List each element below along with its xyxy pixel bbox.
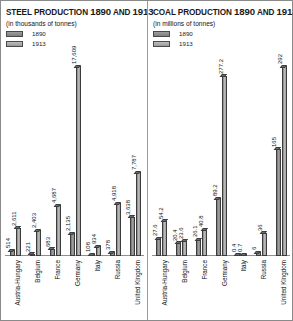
bar-value-label: 17,609 xyxy=(71,46,77,67)
category-label: Russia xyxy=(261,260,267,279)
bar-group: 2,13517,609Germany xyxy=(65,60,85,256)
bar-group: 108934Italy xyxy=(85,60,105,256)
bar-1913-united-kingdom[interactable]: 292 xyxy=(282,66,287,256)
category-label: Russia xyxy=(115,260,121,279)
bar-value-label: 2,611 xyxy=(11,211,17,229)
bar-group: 165292United Kingdom xyxy=(271,60,291,256)
bar-1913-austria-hungary[interactable]: 54.2 xyxy=(162,221,167,256)
bar-1890-belgium[interactable]: 221 xyxy=(30,254,35,256)
bar-value-label: 4,918 xyxy=(111,186,117,204)
bar-group: 27.654.2Austria-Hungary xyxy=(152,60,172,256)
bar-group: 6834,687France xyxy=(45,60,65,256)
bar-1913-russia[interactable]: 4,918 xyxy=(116,203,121,256)
bar-value-label: 292 xyxy=(277,54,283,67)
bar-value-label: 0.7 xyxy=(237,244,243,255)
bar-1890-germany[interactable]: 89.2 xyxy=(216,198,221,256)
bar-value-label: 683 xyxy=(45,237,51,250)
bar-group: 2212,403Belgium xyxy=(25,60,45,256)
bar-value-label: 277.2 xyxy=(218,59,224,77)
coal-title-year-1890: 1890 xyxy=(234,6,255,17)
category-label: Austria-Hungary xyxy=(162,260,168,306)
coal-panel-title: Coal production 1890 and 1913 xyxy=(153,6,293,17)
bar-group: 3784,918Russia xyxy=(105,60,125,256)
bar-1890-germany[interactable]: 2,135 xyxy=(70,233,75,256)
category-label: Germany xyxy=(222,260,228,286)
steel-bar-groups: 5142,611Austria-Hungary2212,403Belgium68… xyxy=(5,60,145,256)
category-label: Belgium xyxy=(35,260,41,283)
legend-swatch-1913 xyxy=(153,41,170,47)
bar-1890-united-kingdom[interactable]: 165 xyxy=(276,149,281,256)
coal-title-and: and xyxy=(257,8,274,17)
bar-value-label: 221 xyxy=(25,242,31,255)
bar-group: 0.40.7Italy xyxy=(231,60,251,256)
bar-1890-france[interactable]: 26.1 xyxy=(196,239,201,256)
category-label: France xyxy=(202,260,208,280)
bar-1890-france[interactable]: 683 xyxy=(50,249,55,256)
steel-panel: Steel production 1890 and 1913 (in thous… xyxy=(1,1,147,320)
steel-panel-title: Steel production 1890 and 1913 xyxy=(6,6,147,17)
coal-plot-area: 27.654.2Austria-Hungary20.423.6Belgium26… xyxy=(148,61,293,318)
coal-title-year-1913: 1913 xyxy=(277,6,293,17)
bar-value-label: 2,135 xyxy=(65,216,71,234)
bar-value-label: 27.6 xyxy=(152,224,158,239)
steel-title-and: and xyxy=(113,8,130,17)
legend-item-1890: 1890 xyxy=(153,30,293,38)
bar-1890-russia[interactable]: 6 xyxy=(256,252,261,256)
bar-group: 636Russia xyxy=(251,60,271,256)
coal-bar-groups: 27.654.2Austria-Hungary20.423.6Belgium26… xyxy=(152,60,291,256)
infographic-page: Steel production 1890 and 1913 (in thous… xyxy=(0,0,293,321)
bar-value-label: 514 xyxy=(5,238,11,251)
bar-value-label: 40.8 xyxy=(198,216,204,231)
bar-1913-germany[interactable]: 17,609 xyxy=(76,66,81,256)
bar-1890-united-kingdom[interactable]: 3,638 xyxy=(130,217,135,256)
bar-value-label: 7,787 xyxy=(131,155,137,173)
bar-1913-belgium[interactable]: 23.6 xyxy=(182,241,187,256)
category-label: Germany xyxy=(75,260,81,286)
bar-1913-belgium[interactable]: 2,403 xyxy=(36,230,41,256)
legend-swatch-1890 xyxy=(6,31,23,37)
category-label: United Kingdom xyxy=(281,260,287,305)
bar-1913-italy[interactable]: 934 xyxy=(96,246,101,256)
bar-1890-austria-hungary[interactable]: 514 xyxy=(10,250,15,256)
bar-group: 5142,611Austria-Hungary xyxy=(5,60,25,256)
bar-value-label: 23.6 xyxy=(178,227,184,242)
coal-title-lead: Coal production xyxy=(153,8,232,17)
bar-1913-france[interactable]: 40.8 xyxy=(202,229,207,256)
bar-value-label: 36 xyxy=(257,224,263,234)
category-label: France xyxy=(55,260,61,280)
bar-value-label: 378 xyxy=(105,240,111,253)
bar-1913-austria-hungary[interactable]: 2,611 xyxy=(16,228,21,256)
category-label: Belgium xyxy=(182,260,188,283)
steel-title-year-1890: 1890 xyxy=(90,6,111,17)
legend-label-1913: 1913 xyxy=(32,41,46,47)
category-label: Austria-Hungary xyxy=(15,260,21,306)
category-label: United Kingdom xyxy=(135,260,141,305)
bar-value-label: 4,687 xyxy=(51,188,57,206)
bar-1890-russia[interactable]: 378 xyxy=(110,252,115,256)
bar-1913-germany[interactable]: 277.2 xyxy=(222,76,227,256)
bar-1890-belgium[interactable]: 20.4 xyxy=(176,243,181,256)
category-label: Italy xyxy=(241,260,247,272)
bar-1890-italy[interactable]: 108 xyxy=(90,254,95,256)
bar-value-label: 89.2 xyxy=(212,184,218,199)
bar-value-label: 20.4 xyxy=(172,229,178,244)
bar-group: 89.2277.2Germany xyxy=(212,60,232,256)
bar-1913-italy[interactable]: 0.7 xyxy=(242,254,247,256)
legend-label-1913: 1913 xyxy=(179,41,193,47)
bar-1890-austria-hungary[interactable]: 27.6 xyxy=(156,238,161,256)
bar-value-label: 26.1 xyxy=(192,225,198,240)
bar-1913-united-kingdom[interactable]: 7,787 xyxy=(136,172,141,256)
bar-group: 20.423.6Belgium xyxy=(172,60,192,256)
bar-value-label: 2,403 xyxy=(31,213,37,231)
legend-item-1913: 1913 xyxy=(153,40,293,48)
coal-panel: Coal production 1890 and 1913 (in millio… xyxy=(147,1,293,320)
bar-value-label: 3,638 xyxy=(125,200,131,218)
legend-item-1890: 1890 xyxy=(6,30,147,38)
bar-1913-france[interactable]: 4,687 xyxy=(56,205,61,256)
legend-label-1890: 1890 xyxy=(32,31,46,37)
bar-1913-russia[interactable]: 36 xyxy=(262,233,267,256)
legend-swatch-1913 xyxy=(6,41,23,47)
bar-value-label: 165 xyxy=(271,137,277,150)
legend-swatch-1890 xyxy=(153,31,170,37)
coal-legend: 1890 1913 xyxy=(153,30,293,48)
